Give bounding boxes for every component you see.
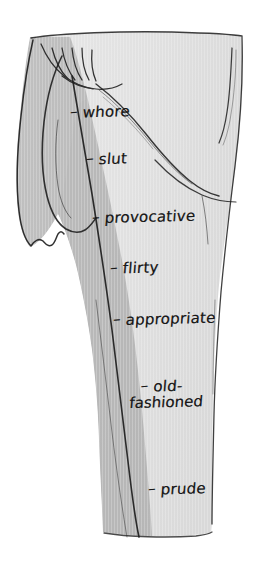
figure-drawing bbox=[0, 0, 253, 563]
illustration-canvas: –whore –slut –provocative –flirty –appro… bbox=[0, 0, 253, 563]
paper-texture bbox=[0, 0, 253, 563]
